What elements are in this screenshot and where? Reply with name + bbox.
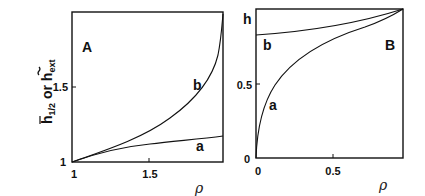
y-tick-label-0.5: 0.5 <box>237 79 252 91</box>
panel-a-curve-b-label: b <box>193 77 202 93</box>
panel-b-label: B <box>385 37 395 53</box>
panel-a-curve-a-label: a <box>196 138 204 154</box>
panel-b-x-axis-title: ρ <box>378 177 388 193</box>
panel-b-curve-a-label: a <box>269 97 277 113</box>
panel-b-curve-b-label: b <box>263 37 272 53</box>
x-tick-label-1.5: 1.5 <box>142 168 157 180</box>
x-tick-label-1: 1 <box>71 168 77 180</box>
panel-a-label: A <box>82 39 92 55</box>
panel-b: B b a h 0 0.5 0 0.5 ρ <box>237 9 403 193</box>
panel-b-frame <box>256 9 403 158</box>
panel-b-curve-a <box>256 9 403 158</box>
x-tick-label-0.5: 0.5 <box>325 165 340 177</box>
panel-b-curve-b <box>256 9 403 35</box>
panel-a-x-axis-title: ρ <box>194 180 204 196</box>
panel-a: A b a 1 1.5 1 1.5 ρ h1/2 or hext <box>38 12 223 196</box>
svg-text:h1/2 or hext: h1/2 or hext <box>39 60 57 124</box>
figure: A b a 1 1.5 1 1.5 ρ h1/2 or hext B b a h… <box>0 0 425 196</box>
panel-a-y-axis-title: h1/2 or hext <box>38 60 57 124</box>
y-tick-label-0: 0 <box>244 153 250 165</box>
y-tick-label-1: 1 <box>60 156 66 168</box>
panel-b-y-axis-title: h <box>243 11 252 27</box>
x-tick-label-0: 0 <box>255 165 261 177</box>
